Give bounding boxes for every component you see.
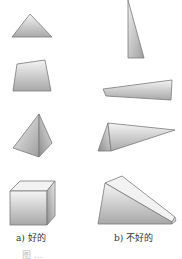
good-label: a) 好的 (16, 231, 46, 244)
bad-label: b) 不好的 (114, 231, 153, 244)
bad-tetrahedron (98, 123, 175, 151)
good-tetrahedron (13, 114, 52, 157)
bad-hexahedron (98, 176, 176, 224)
figure-caption: 图 ... (22, 248, 42, 259)
good-triangle (12, 14, 52, 37)
bad-triangle (128, 0, 144, 58)
good-hexahedron (10, 181, 55, 225)
element-quality-figure (0, 0, 182, 259)
good-quadrilateral (13, 60, 51, 91)
bad-quadrilateral (103, 80, 172, 100)
